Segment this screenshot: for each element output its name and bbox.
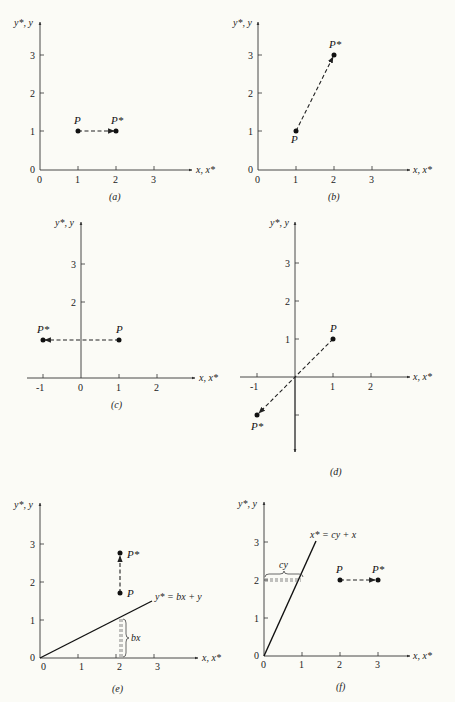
svg-text:2: 2 [331, 174, 336, 185]
x-axis-label: x, x* [195, 164, 215, 175]
caption: (c) [111, 399, 123, 411]
svg-text:0: 0 [37, 174, 42, 185]
svg-text:3: 3 [248, 50, 253, 61]
point-p-star [41, 338, 46, 343]
panel-f: y*, y x, x* 3 2 1 0 0 1 2 3 x* = cy + x … [237, 498, 432, 693]
point-p [76, 129, 81, 134]
x-axis-label: x, x* [201, 652, 221, 663]
svg-text:3: 3 [369, 174, 374, 185]
svg-text:0: 0 [255, 174, 260, 185]
svg-text:1: 1 [30, 126, 35, 137]
y-axis-label: y*, y [54, 217, 74, 228]
svg-text:2: 2 [248, 88, 253, 99]
y-axis-label: y*, y [13, 17, 33, 28]
point-p-star [332, 53, 337, 58]
svg-text:3: 3 [254, 537, 259, 548]
point-p-star [118, 551, 123, 556]
y-axis-label: y*, y [232, 17, 252, 28]
transform-arrow [296, 57, 333, 131]
svg-text:P*: P* [110, 114, 124, 126]
svg-text:1: 1 [330, 381, 335, 392]
x-axis-label: x, x* [412, 164, 432, 175]
svg-text:-1: -1 [36, 382, 44, 393]
svg-text:3: 3 [71, 259, 76, 270]
svg-text:0: 0 [248, 164, 253, 175]
svg-text:P*: P* [328, 38, 342, 50]
caption: (a) [109, 191, 121, 203]
svg-text:3: 3 [151, 174, 156, 185]
svg-text:1: 1 [30, 615, 35, 626]
transformation-figure: y*, y x, x* 3 2 1 0 0 1 2 3 P P* (a) y*,… [0, 0, 455, 702]
svg-text:3: 3 [375, 659, 380, 670]
caption: (e) [112, 683, 124, 695]
svg-text:-1: -1 [250, 381, 258, 392]
svg-text:P*: P* [36, 323, 50, 335]
panel-a: y*, y x, x* 3 2 1 0 0 1 2 3 P P* (a) [13, 17, 215, 203]
brace-label: bx [131, 632, 141, 643]
svg-text:1: 1 [79, 661, 84, 672]
y-axis-label: y*, y [269, 217, 289, 228]
point-p-star [114, 129, 119, 134]
svg-text:1: 1 [116, 382, 121, 393]
point-p [331, 337, 336, 342]
transform-arrow [259, 339, 333, 413]
svg-text:2: 2 [113, 174, 118, 185]
svg-text:2: 2 [337, 659, 342, 670]
bx-brace [123, 619, 129, 657]
cy-brace [265, 571, 303, 577]
caption: (f) [336, 681, 346, 693]
brace-label: cy [279, 559, 288, 570]
svg-text:P: P [335, 563, 343, 575]
point-p-star [255, 413, 260, 418]
point-p-star [376, 578, 381, 583]
svg-text:P: P [115, 323, 123, 335]
panel-c: y*, y x, x* 3 2 -1 0 1 2 P P* (c) [27, 217, 218, 411]
svg-text:P: P [290, 133, 298, 145]
svg-text:3: 3 [155, 661, 160, 672]
x-axis-label: x, x* [198, 372, 218, 383]
panel-b: y*, y x, x* 3 2 1 0 0 1 2 3 P P* (b) [232, 17, 432, 203]
svg-text:2: 2 [71, 297, 76, 308]
shear-line [264, 541, 316, 656]
svg-text:P*: P* [250, 420, 264, 432]
svg-text:0: 0 [30, 164, 35, 175]
svg-text:3: 3 [285, 258, 290, 269]
svg-text:2: 2 [368, 381, 373, 392]
y-axis-label: y*, y [13, 499, 33, 510]
svg-text:P*: P* [126, 548, 140, 560]
svg-text:2: 2 [154, 382, 159, 393]
panel-e: y*, y x, x* 3 2 1 0 0 1 2 3 y* = bx + y … [13, 499, 221, 695]
svg-text:1: 1 [299, 659, 304, 670]
svg-text:2: 2 [30, 88, 35, 99]
svg-text:2: 2 [117, 661, 122, 672]
svg-text:P: P [73, 114, 81, 126]
panel-d: y*, y x, x* 3 2 1 -1 1 2 P P* (d) [240, 217, 432, 478]
svg-text:1: 1 [285, 334, 290, 345]
svg-text:3: 3 [30, 50, 35, 61]
svg-text:1: 1 [75, 174, 80, 185]
svg-text:1: 1 [293, 174, 298, 185]
point-p [338, 578, 343, 583]
svg-text:1: 1 [248, 126, 253, 137]
caption: (d) [330, 466, 342, 478]
svg-text:2: 2 [30, 577, 35, 588]
caption: (b) [328, 191, 340, 203]
point-p [118, 591, 123, 596]
svg-text:0: 0 [41, 661, 46, 672]
y-axis-label: y*, y [237, 498, 257, 509]
svg-text:1: 1 [254, 613, 259, 624]
x-axis-label: x, x* [412, 650, 432, 661]
svg-text:3: 3 [30, 539, 35, 550]
point-p [117, 338, 122, 343]
svg-text:0: 0 [254, 650, 259, 661]
svg-text:0: 0 [261, 659, 266, 670]
svg-text:2: 2 [285, 296, 290, 307]
line-equation: x* = cy + x [309, 529, 357, 540]
x-axis-label: x, x* [412, 371, 432, 382]
svg-text:0: 0 [30, 652, 35, 663]
shear-line [40, 601, 152, 658]
svg-text:0: 0 [78, 382, 83, 393]
svg-text:P: P [126, 587, 134, 599]
line-equation: y* = bx + y [154, 591, 202, 602]
svg-text:2: 2 [254, 575, 259, 586]
